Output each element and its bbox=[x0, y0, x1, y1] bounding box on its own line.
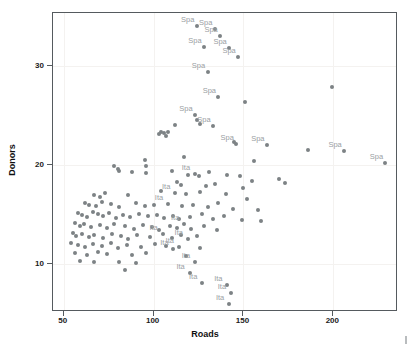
corner-artifact bbox=[405, 336, 407, 344]
data-point bbox=[78, 259, 82, 263]
data-point bbox=[207, 170, 211, 174]
data-point bbox=[83, 245, 87, 249]
data-point bbox=[236, 55, 240, 59]
data-point bbox=[265, 143, 269, 147]
data-point bbox=[234, 142, 238, 146]
data-point bbox=[171, 247, 175, 251]
data-point bbox=[161, 232, 165, 236]
data-point bbox=[229, 291, 233, 295]
data-point bbox=[193, 260, 197, 264]
data-point bbox=[240, 218, 244, 222]
data-point bbox=[188, 215, 192, 219]
data-point bbox=[73, 221, 77, 225]
point-label: Ita bbox=[218, 283, 226, 291]
point-label: Ita bbox=[149, 224, 157, 232]
data-point bbox=[116, 246, 120, 250]
y-axis-title: Donors bbox=[7, 130, 17, 190]
point-label: Spa bbox=[192, 63, 205, 71]
data-point bbox=[109, 202, 113, 206]
data-point bbox=[126, 237, 130, 241]
data-point bbox=[130, 253, 134, 257]
point-label: Spa bbox=[197, 116, 210, 124]
data-point bbox=[107, 211, 111, 215]
gridline-horizontal bbox=[53, 264, 396, 265]
data-point bbox=[216, 201, 220, 205]
data-point bbox=[94, 204, 98, 208]
data-point bbox=[141, 223, 145, 227]
data-point bbox=[92, 193, 96, 197]
point-label: Ita bbox=[171, 214, 179, 222]
data-point bbox=[98, 223, 102, 227]
data-point bbox=[202, 224, 206, 228]
data-point bbox=[144, 251, 148, 255]
point-label: Ita bbox=[162, 183, 170, 191]
data-point bbox=[144, 164, 148, 168]
data-point bbox=[119, 234, 123, 238]
point-label: Ita bbox=[182, 165, 190, 173]
point-label: Spa bbox=[204, 26, 217, 34]
data-point bbox=[76, 243, 80, 247]
data-point bbox=[98, 195, 102, 199]
data-point bbox=[241, 186, 245, 190]
data-point bbox=[96, 250, 100, 254]
point-label: Ita bbox=[176, 264, 184, 272]
data-point bbox=[101, 214, 105, 218]
data-point bbox=[177, 245, 181, 249]
data-point bbox=[224, 192, 228, 196]
data-point bbox=[245, 197, 249, 201]
data-point bbox=[143, 158, 147, 162]
x-tick-mark bbox=[332, 311, 333, 316]
x-axis-title: Roads bbox=[0, 329, 410, 339]
gridline-horizontal bbox=[53, 66, 396, 67]
x-tick-label: 100 bbox=[146, 316, 159, 325]
point-label: Spa bbox=[188, 37, 201, 45]
point-label: Spa bbox=[203, 87, 216, 95]
data-point bbox=[135, 233, 139, 237]
data-point bbox=[85, 215, 89, 219]
data-point bbox=[231, 207, 235, 211]
data-point bbox=[342, 149, 346, 153]
x-tick-mark bbox=[153, 311, 154, 316]
data-point bbox=[109, 241, 113, 245]
y-tick-mark bbox=[47, 65, 52, 66]
data-point bbox=[105, 252, 109, 256]
data-point bbox=[191, 203, 195, 207]
data-point bbox=[139, 245, 143, 249]
data-point bbox=[330, 85, 334, 89]
data-point bbox=[91, 242, 95, 246]
data-point bbox=[198, 190, 202, 194]
point-label: Ita bbox=[175, 229, 183, 237]
data-point bbox=[101, 236, 105, 240]
data-point bbox=[256, 208, 260, 212]
y-tick-mark bbox=[47, 164, 52, 165]
data-point bbox=[112, 222, 116, 226]
data-point bbox=[105, 226, 109, 230]
point-label: Spa bbox=[213, 38, 226, 46]
data-point bbox=[103, 191, 107, 195]
point-label: Spa bbox=[221, 134, 234, 142]
data-point bbox=[96, 212, 100, 216]
data-point bbox=[202, 45, 206, 49]
data-point bbox=[69, 241, 73, 245]
point-label: Spa bbox=[222, 47, 235, 55]
data-point bbox=[73, 251, 77, 255]
data-point bbox=[186, 173, 190, 177]
scatter-chart: SpaSpaSpaSpaSpaSpaSpaSpaSpaSpaSpaSpaSpaS… bbox=[0, 0, 410, 352]
data-point bbox=[213, 182, 217, 186]
data-point bbox=[227, 302, 231, 306]
data-point bbox=[117, 205, 121, 209]
data-point bbox=[173, 191, 177, 195]
x-tick-label: 50 bbox=[58, 316, 67, 325]
data-point bbox=[114, 216, 118, 220]
data-point bbox=[259, 219, 263, 223]
data-point bbox=[144, 171, 148, 175]
point-label: Ita bbox=[189, 274, 197, 282]
data-point bbox=[238, 174, 242, 178]
data-point bbox=[180, 204, 184, 208]
data-point bbox=[206, 205, 210, 209]
data-point bbox=[87, 203, 91, 207]
data-point bbox=[155, 213, 159, 217]
point-label: Spa bbox=[328, 141, 341, 149]
data-point bbox=[87, 235, 91, 239]
data-point bbox=[182, 155, 186, 159]
